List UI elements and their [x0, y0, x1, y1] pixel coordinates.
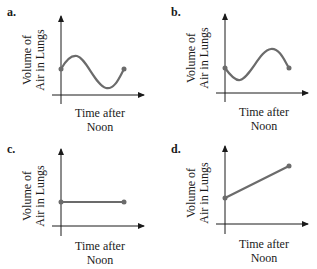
graph-b-start-point — [223, 66, 228, 71]
graph-d-axes — [216, 146, 308, 234]
graph-d-curve — [223, 164, 292, 201]
graph-d-end-point — [287, 164, 292, 169]
graph-c-axes — [52, 149, 144, 236]
graph-b-axes — [216, 14, 308, 102]
graph-a-end-point — [122, 67, 127, 72]
graph-c-start-point — [59, 200, 64, 205]
graph-a-axes — [52, 16, 144, 104]
graph-a-start-point — [59, 67, 64, 72]
graph-b-curve — [223, 49, 292, 80]
graphs-canvas — [0, 0, 317, 269]
graph-a-curve — [59, 56, 127, 88]
graph-c-curve — [59, 200, 127, 205]
graph-c-end-point — [122, 200, 127, 205]
graph-b-end-point — [287, 66, 292, 71]
graph-d-start-point — [223, 196, 228, 201]
